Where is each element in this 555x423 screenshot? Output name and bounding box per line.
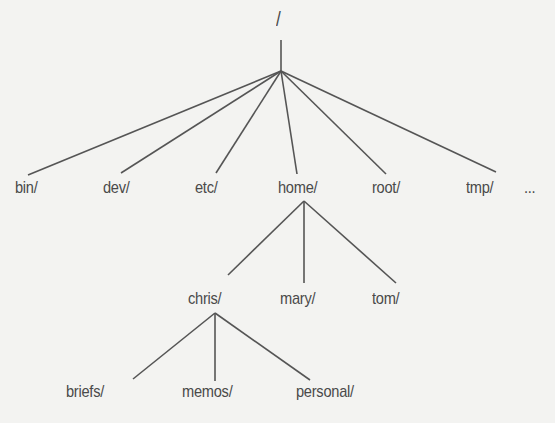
node-chris: chris/: [188, 289, 221, 309]
tree-edge: [281, 71, 386, 174]
tree-edge: [215, 313, 310, 380]
node-memos: memos/: [182, 382, 232, 402]
node-etc: etc/: [195, 178, 218, 198]
tree-edge: [281, 71, 297, 174]
tree-edge: [28, 71, 281, 175]
node-bin: bin/: [15, 178, 38, 198]
node-ellipsis: ...: [524, 178, 535, 198]
tree-edge: [216, 71, 281, 173]
node-root-dir: root/: [372, 178, 400, 198]
node-mary: mary/: [280, 289, 315, 309]
tree-edge: [133, 313, 215, 379]
tree-edge: [121, 71, 281, 173]
node-personal: personal/: [296, 382, 354, 402]
node-root: /: [276, 9, 281, 29]
node-tom: tom/: [372, 289, 399, 309]
tree-edge: [228, 201, 304, 275]
node-tmp: tmp/: [466, 178, 493, 198]
tree-edge: [281, 71, 496, 172]
tree-edges: [0, 0, 555, 423]
node-briefs: briefs/: [66, 382, 104, 402]
tree-edge: [304, 201, 396, 283]
node-home: home/: [278, 178, 317, 198]
node-dev: dev/: [103, 178, 130, 198]
